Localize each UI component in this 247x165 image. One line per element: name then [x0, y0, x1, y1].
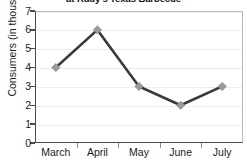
x-tick-label: May — [118, 147, 160, 158]
gridline — [36, 106, 242, 107]
y-tick-label: 3 — [15, 81, 31, 92]
x-tick-label: July — [201, 147, 243, 158]
y-tick-label: 2 — [15, 100, 31, 111]
x-tick-mark — [77, 143, 78, 148]
x-tick-label: June — [160, 147, 202, 158]
chart-title: at Rudy's Texas Barbecue — [0, 0, 247, 4]
gridline — [36, 125, 242, 126]
gridline — [36, 49, 242, 50]
x-tick-mark — [160, 143, 161, 148]
x-tick-label: March — [35, 147, 77, 158]
gridline — [36, 68, 242, 69]
y-tick-label: 6 — [15, 24, 31, 35]
gridline — [36, 12, 242, 13]
x-tick-label: April — [77, 147, 119, 158]
y-tick-label: 0 — [15, 138, 31, 149]
y-tick-label: 5 — [15, 43, 31, 54]
y-tick-label: 7 — [15, 6, 31, 17]
line-chart: at Rudy's Texas Barbecue Consumers (in t… — [0, 0, 247, 165]
gridline — [36, 30, 242, 31]
x-tick-mark — [118, 143, 119, 148]
y-tick-label: 4 — [15, 62, 31, 73]
x-tick-mark — [201, 143, 202, 148]
plot-area — [35, 11, 243, 143]
gridline — [36, 87, 242, 88]
y-tick-label: 1 — [15, 119, 31, 130]
